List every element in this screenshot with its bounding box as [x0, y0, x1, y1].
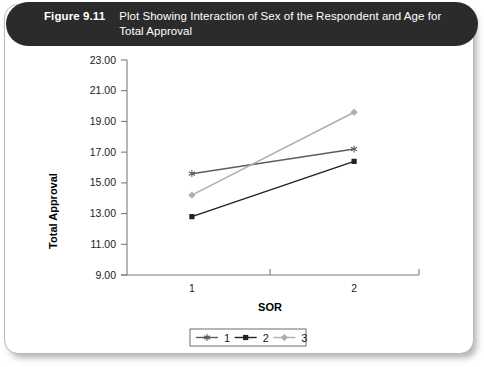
square-marker — [352, 159, 357, 164]
interaction-line-chart: Total Approval 9.0011.0013.0015.0017.001… — [0, 46, 484, 351]
y-tick-label: 9.00 — [96, 269, 117, 281]
y-axis-ticks: 9.0011.0013.0015.0017.0019.0021.0023.00 — [90, 54, 127, 281]
square-marker — [243, 335, 248, 340]
x-axis-ticks: 12 — [189, 282, 357, 294]
square-marker — [189, 214, 194, 219]
x-tick-label: 2 — [351, 282, 357, 294]
figure-page: Figure 9.11 Plot Showing Interaction of … — [0, 0, 484, 367]
diamond-marker — [189, 192, 195, 198]
y-tick-label: 21.00 — [90, 84, 116, 96]
data-series — [189, 159, 356, 219]
figure-caption-inner: Figure 9.11 Plot Showing Interaction of … — [44, 9, 454, 38]
figure-caption-bar: Figure 9.11 Plot Showing Interaction of … — [6, 2, 478, 46]
series-group — [189, 109, 358, 219]
y-tick-label: 23.00 — [90, 54, 116, 66]
legend-label: 1 — [224, 332, 230, 344]
data-series — [189, 146, 357, 177]
y-axis-title: Total Approval — [47, 173, 59, 249]
diamond-marker — [351, 109, 357, 115]
y-tick-label: 17.00 — [90, 146, 116, 158]
x-axis-title: SOR — [258, 301, 282, 313]
x-tick-label: 1 — [189, 282, 195, 294]
y-tick-label: 15.00 — [90, 176, 116, 188]
chart-legend: 123 — [190, 329, 307, 346]
figure-caption-text: Plot Showing Interaction of Sex of the R… — [119, 9, 449, 38]
chart-container: Total Approval 9.0011.0013.0015.0017.001… — [0, 46, 484, 351]
data-series — [189, 109, 358, 198]
series-line — [192, 112, 354, 195]
y-tick-label: 11.00 — [91, 238, 117, 250]
y-tick-label: 13.00 — [90, 207, 116, 219]
figure-number: Figure 9.11 — [44, 9, 105, 24]
legend-label: 3 — [301, 332, 307, 344]
y-tick-label: 19.00 — [90, 115, 116, 127]
legend-label: 2 — [263, 332, 269, 344]
